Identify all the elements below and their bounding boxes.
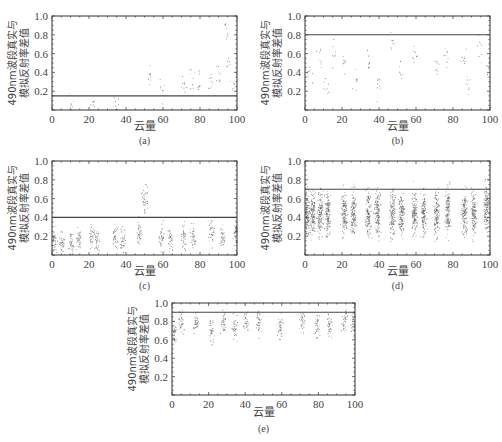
data-point — [465, 222, 466, 223]
data-point — [141, 193, 142, 194]
data-point — [326, 209, 327, 210]
data-point — [306, 224, 307, 225]
data-point — [256, 327, 257, 328]
data-point — [327, 230, 328, 231]
data-point — [72, 239, 73, 240]
data-point — [345, 322, 346, 323]
data-point — [307, 200, 308, 201]
data-point — [404, 221, 405, 222]
data-point — [326, 236, 327, 237]
data-point — [426, 212, 427, 213]
data-point — [306, 234, 307, 235]
data-point — [355, 69, 356, 70]
data-point — [327, 195, 328, 196]
data-point — [222, 238, 223, 239]
data-point — [310, 213, 311, 214]
data-point — [472, 228, 473, 229]
data-point — [194, 72, 195, 73]
y-axis-label: 490nm波段真实与 — [259, 20, 271, 105]
data-point — [354, 324, 355, 325]
data-point — [394, 195, 395, 196]
data-point — [435, 208, 436, 209]
data-point — [402, 223, 403, 224]
data-point — [70, 241, 71, 242]
data-point — [371, 226, 372, 227]
data-point — [424, 201, 425, 202]
data-point — [211, 237, 212, 238]
data-point — [115, 241, 116, 242]
data-point — [403, 208, 404, 209]
y-tick-label: 0.2 — [34, 85, 48, 97]
data-point — [301, 315, 302, 316]
data-point — [345, 74, 346, 75]
data-point — [378, 215, 379, 216]
data-point — [90, 235, 91, 236]
data-point — [472, 212, 473, 213]
data-point — [182, 319, 183, 320]
data-point — [234, 324, 235, 325]
data-point — [415, 195, 416, 196]
data-point — [477, 203, 478, 204]
data-point — [367, 199, 368, 200]
data-point — [472, 222, 473, 223]
data-point — [423, 203, 424, 204]
data-point — [91, 242, 92, 243]
data-point — [55, 240, 56, 241]
data-point — [220, 243, 221, 244]
data-point — [318, 219, 319, 220]
data-point — [439, 214, 440, 215]
data-point — [377, 221, 378, 222]
data-point — [368, 64, 369, 65]
data-point — [447, 216, 448, 217]
data-point — [436, 202, 437, 203]
data-point — [369, 220, 370, 221]
data-point — [248, 329, 249, 330]
data-point — [310, 222, 311, 223]
data-point — [474, 214, 475, 215]
data-point — [417, 201, 418, 202]
data-point — [468, 87, 469, 88]
data-point — [234, 84, 235, 85]
data-point — [366, 224, 367, 225]
data-point — [222, 236, 223, 237]
data-point — [174, 335, 175, 336]
data-point — [312, 209, 313, 210]
data-point — [220, 333, 221, 334]
data-point — [329, 212, 330, 213]
data-point — [73, 101, 74, 102]
data-point — [480, 43, 481, 44]
data-point — [435, 195, 436, 196]
data-point — [198, 321, 199, 322]
data-point — [313, 228, 314, 229]
data-point — [439, 215, 440, 216]
data-point — [434, 234, 435, 235]
data-point — [345, 210, 346, 211]
data-point — [247, 319, 248, 320]
data-point — [367, 212, 368, 213]
data-point — [225, 319, 226, 320]
data-point — [400, 217, 401, 218]
data-point — [62, 242, 63, 243]
data-point — [258, 323, 259, 324]
data-point — [401, 231, 402, 232]
data-point — [161, 251, 162, 252]
data-point — [375, 202, 376, 203]
data-point — [447, 222, 448, 223]
data-point — [331, 329, 332, 330]
data-point — [390, 217, 391, 218]
data-point — [159, 237, 160, 238]
data-point — [279, 325, 280, 326]
data-point — [402, 206, 403, 207]
data-point — [377, 222, 378, 223]
data-point — [96, 245, 97, 246]
data-point — [193, 88, 194, 89]
data-point — [161, 236, 162, 237]
data-point — [64, 243, 65, 244]
data-point — [70, 249, 71, 250]
data-point — [315, 192, 316, 193]
scatter-points — [173, 310, 356, 346]
data-point — [438, 203, 439, 204]
data-point — [192, 233, 193, 234]
data-point — [414, 201, 415, 202]
data-point — [367, 216, 368, 217]
